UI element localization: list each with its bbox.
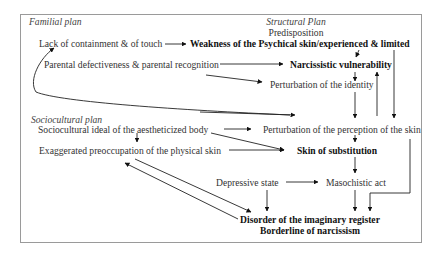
plane-label-structural: Structural Plan — [266, 16, 325, 27]
node-lack-of-containment: Lack of containment & of touch — [39, 38, 162, 49]
node-disorder-imaginary-register: Disorder of the imaginary register — [240, 214, 380, 225]
plane-label-familial: Familial plan — [29, 16, 82, 27]
edge-ideal-to-substitution — [211, 133, 284, 150]
node-predisposition: Predisposition — [269, 27, 324, 38]
node-skin-of-substitution: Skin of substitution — [297, 145, 377, 156]
node-masochistic-act: Masochistic act — [326, 177, 386, 188]
node-parental-defectiveness: Parental defectiveness & parental recogn… — [44, 59, 219, 70]
edge-curve-to-perception — [200, 112, 295, 115]
node-borderline-of-narcissism: Borderline of narcissism — [260, 225, 360, 236]
node-depressive-state: Depressive state — [216, 177, 279, 188]
node-perturbation-identity: Perturbation of the identity — [270, 79, 374, 90]
node-weakness-psychical-skin: Weakness of the Psychical skin/experienc… — [190, 38, 410, 49]
edge-weakness-to-narcissistic — [356, 50, 359, 57]
node-sociocultural-ideal: Sociocultural ideal of the aestheticized… — [38, 124, 208, 135]
edge-parental-to-identity — [206, 75, 262, 82]
node-narcissistic-vulnerability: Narcissistic vulnerability — [290, 59, 392, 70]
node-perturbation-perception: Perturbation of the perception of the sk… — [263, 124, 421, 135]
node-exaggerated-preoccupation: Exaggerated preoccupation of the physica… — [39, 145, 221, 156]
edge-disorder-to-exaggerated — [125, 163, 238, 219]
